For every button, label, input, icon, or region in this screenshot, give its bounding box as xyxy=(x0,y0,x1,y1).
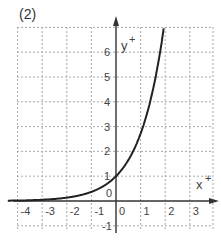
x-tick-label: -1 xyxy=(94,205,104,217)
y-tick-label: 1 xyxy=(104,170,110,182)
x-tick-label: 0 xyxy=(119,205,125,217)
x-tick-label: -3 xyxy=(45,205,55,217)
y-tick-label: 4 xyxy=(104,96,110,108)
y-tick-label: 5 xyxy=(104,71,110,83)
x-tick-label: 2 xyxy=(168,205,174,217)
y-tick-label: 2 xyxy=(104,145,110,157)
chart-plot: -4-3-2-10123-10123456x+y+ xyxy=(0,0,221,240)
x-axis-arrow-icon xyxy=(209,198,219,204)
y-tick-label: 3 xyxy=(104,121,110,133)
y-axis-label: y xyxy=(121,38,128,53)
x-axis-label-sup: + xyxy=(205,172,211,184)
y-tick-label: 6 xyxy=(104,46,110,58)
x-tick-label: -2 xyxy=(70,205,80,217)
x-tick-label: -4 xyxy=(21,205,31,217)
y-axis-arrow-icon xyxy=(113,16,119,26)
y-tick-label: 0 xyxy=(106,187,112,199)
x-axis-label: x xyxy=(196,177,203,192)
x-tick-label: 3 xyxy=(193,205,199,217)
y-tick-label: -1 xyxy=(102,220,112,232)
y-axis-label-sup: + xyxy=(129,33,135,45)
x-tick-label: 1 xyxy=(144,205,150,217)
function-curve xyxy=(8,28,164,200)
